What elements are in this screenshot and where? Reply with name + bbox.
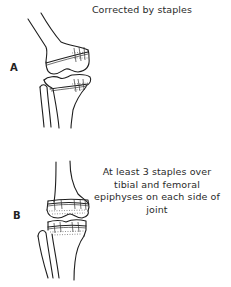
panel-b-knee-frontal-drawing: [0, 0, 231, 287]
